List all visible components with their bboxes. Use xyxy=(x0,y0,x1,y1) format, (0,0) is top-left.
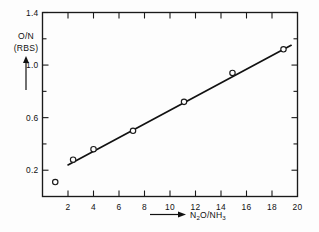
x-tick-label: 6 xyxy=(117,202,122,212)
figure-container: 2468101214161820 0.20.61.01.4 N2O/NH3 O/… xyxy=(0,0,319,232)
x-axis-title-group: N2O/NH3 xyxy=(150,210,226,221)
y-tick-label: 1.4 xyxy=(26,8,39,18)
data-point-marker xyxy=(130,128,135,133)
data-point-marker xyxy=(70,157,75,162)
chart-plot: 2468101214161820 0.20.61.01.4 N2O/NH3 O/… xyxy=(0,0,319,232)
y-axis-title-line2: (RBS) xyxy=(14,43,38,53)
plot-frame xyxy=(43,13,298,197)
x-tick-label: 20 xyxy=(293,202,303,212)
x-axis-arrow-head xyxy=(178,212,186,218)
data-point-marker xyxy=(53,179,58,184)
y-axis-ticks xyxy=(43,13,298,171)
x-axis-tick-labels: 2468101214161820 xyxy=(66,202,303,212)
data-point-marker xyxy=(181,99,186,104)
trend-line xyxy=(68,45,291,165)
x-tick-label: 18 xyxy=(267,202,277,212)
x-axis-ticks xyxy=(68,13,272,197)
data-point-marker xyxy=(91,146,96,151)
data-point-marker xyxy=(281,47,286,52)
x-tick-label: 16 xyxy=(242,202,252,212)
data-point-marker xyxy=(230,70,235,75)
x-tick-label: 10 xyxy=(165,202,175,212)
x-tick-label: 8 xyxy=(142,202,147,212)
y-axis-title-line1: O/N xyxy=(18,31,34,41)
y-tick-label: 0.6 xyxy=(26,113,39,123)
x-tick-label: 4 xyxy=(91,202,96,212)
x-tick-label: 2 xyxy=(66,202,71,212)
x-axis-title: N2O/NH3 xyxy=(190,210,226,221)
y-tick-label: 0.2 xyxy=(26,165,39,175)
